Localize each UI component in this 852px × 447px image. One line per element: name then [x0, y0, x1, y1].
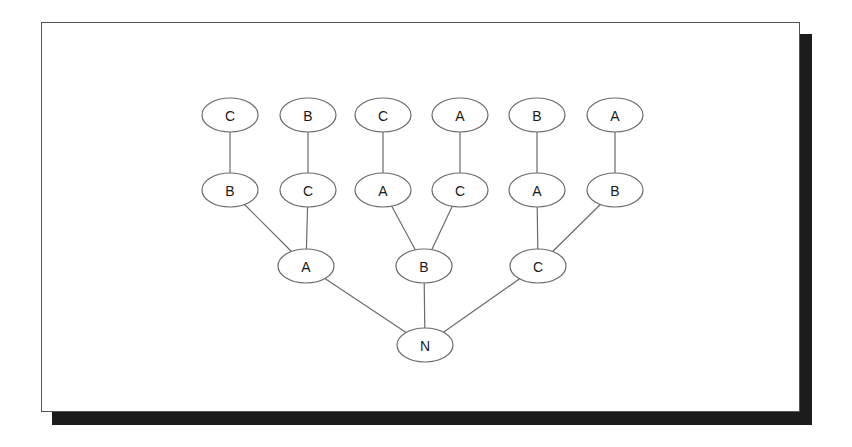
edges-group — [230, 132, 615, 332]
tree-edge — [392, 206, 416, 250]
tree-diagram: CBCABABCACABABCN — [0, 0, 852, 447]
node-label: C — [378, 108, 388, 124]
tree-node[interactable]: N — [397, 328, 453, 362]
tree-edge — [537, 207, 538, 249]
node-label: N — [420, 338, 430, 354]
tree-node[interactable]: B — [509, 98, 565, 132]
node-label: B — [225, 183, 234, 199]
node-label: A — [455, 108, 465, 124]
diagram-canvas: CBCABABCACABABCN — [0, 0, 852, 447]
tree-edge — [553, 204, 601, 251]
tree-edge — [325, 279, 406, 333]
node-label: A — [301, 259, 311, 275]
node-label: A — [532, 183, 542, 199]
node-label: B — [419, 259, 428, 275]
tree-edge — [245, 205, 292, 252]
node-label: C — [533, 259, 543, 275]
tree-node[interactable]: A — [355, 173, 411, 207]
node-label: A — [378, 183, 388, 199]
nodes-group: CBCABABCACABABCN — [202, 98, 643, 362]
tree-edge — [443, 279, 519, 332]
node-label: C — [225, 108, 235, 124]
tree-node[interactable]: A — [278, 249, 334, 283]
tree-node[interactable]: A — [587, 98, 643, 132]
tree-node[interactable]: C — [432, 173, 488, 207]
tree-node[interactable]: B — [396, 249, 452, 283]
tree-node[interactable]: C — [355, 98, 411, 132]
tree-node[interactable]: C — [510, 249, 566, 283]
tree-edge — [432, 206, 453, 249]
tree-node[interactable]: A — [509, 173, 565, 207]
node-label: B — [610, 183, 619, 199]
tree-node[interactable]: B — [280, 98, 336, 132]
node-label: C — [455, 183, 465, 199]
tree-node[interactable]: B — [587, 173, 643, 207]
node-label: B — [303, 108, 312, 124]
node-label: B — [532, 108, 541, 124]
tree-edge — [424, 283, 425, 328]
tree-node[interactable]: C — [280, 173, 336, 207]
tree-node[interactable]: B — [202, 173, 258, 207]
tree-node[interactable]: C — [202, 98, 258, 132]
tree-edge — [306, 207, 307, 249]
node-label: A — [610, 108, 620, 124]
tree-node[interactable]: A — [432, 98, 488, 132]
node-label: C — [303, 183, 313, 199]
